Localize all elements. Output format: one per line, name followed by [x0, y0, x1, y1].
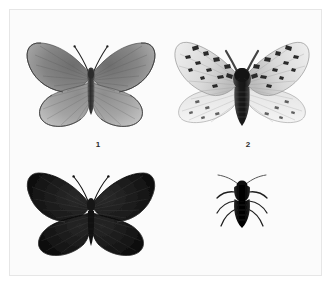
caption-specimen-2: 2 [236, 140, 260, 149]
specimen-2-body [233, 68, 251, 126]
caption-specimen-1: 1 [86, 140, 110, 149]
specimen-3-body [87, 198, 95, 246]
plate-frame: 1 2 [9, 9, 322, 276]
specimen-3-butterfly-dark [23, 159, 159, 263]
specimen-plate: 1 2 [0, 0, 334, 287]
specimen-4-insect-body [207, 171, 277, 241]
specimen-1-butterfly-gray [23, 29, 159, 137]
specimen-2-moth-mottled [169, 29, 315, 139]
